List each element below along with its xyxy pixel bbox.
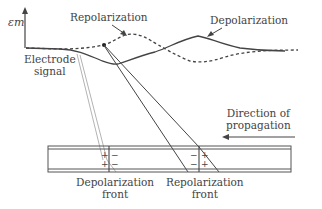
depol-projection-line-2 [80,55,107,160]
repol-projection-line-1 [104,45,199,147]
repol-plus-bottom: + [201,158,209,170]
repol-minus-bottom: − [190,158,198,170]
repolarization-label: Repolarization [70,11,148,23]
diagram-canvas [0,0,322,209]
depolarization-arrowhead-icon [207,31,214,37]
depol-minus-bottom: − [111,158,119,170]
repolarization-front-label: Repolarization front [166,176,244,200]
direction-arrow-left-icon [222,134,229,140]
depol-projection-line-1 [77,54,103,160]
y-axis-label: εm [8,17,24,29]
depolarization-front-label: Depolarization front [76,176,154,200]
electrode-signal-label: Electrode signal [24,53,76,77]
depolarization-label: Depolarization [210,14,288,26]
fiber-strip [48,146,291,172]
depol-plus-bottom: + [101,158,109,170]
axis-arrow-icon [22,7,28,14]
direction-of-propagation-label: Direction of propagation [226,107,291,131]
